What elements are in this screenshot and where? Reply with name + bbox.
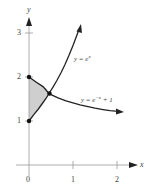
plot-area [0, 0, 148, 192]
curve-exp-arrow [77, 24, 83, 33]
tick-label-x1: 1 [71, 175, 75, 184]
point-intersection [47, 91, 51, 95]
point-0-2 [27, 75, 31, 79]
tick-label-x0: 0 [26, 175, 30, 184]
equation-exp: y = ex [74, 54, 91, 63]
y-axis-label: y [27, 5, 31, 14]
tick-label-y2: 2 [17, 72, 21, 81]
point-0-1 [27, 119, 31, 123]
tick-label-y1: 1 [17, 116, 21, 125]
equation-decay: y = e−x + 1 [81, 95, 113, 104]
x-axis-label: x [140, 160, 144, 169]
x-axis-arrow [129, 162, 138, 168]
tick-label-y3: 3 [17, 28, 21, 37]
y-axis-arrow [26, 17, 32, 26]
tick-label-x2: 2 [115, 175, 119, 184]
curve-decay-arrow [116, 109, 124, 115]
